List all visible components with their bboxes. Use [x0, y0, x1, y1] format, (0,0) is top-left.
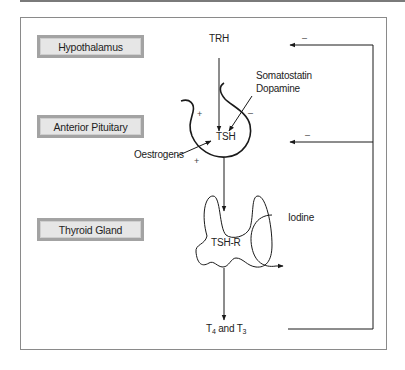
- oestrogens-label: Oestrogens: [134, 149, 184, 160]
- dopamine-label: Dopamine: [256, 83, 300, 94]
- iodine-label: Iodine: [288, 212, 314, 223]
- pituitary-outline: [181, 83, 251, 157]
- plus-sign-upper: +: [197, 109, 202, 119]
- tsh-r-label: TSH-R: [211, 237, 241, 248]
- trh-label: TRH: [209, 33, 229, 44]
- minus-sign-feedback-top: –: [302, 33, 307, 43]
- feedback-hypothalamus-line: [288, 45, 373, 329]
- tsh-label: TSH: [216, 131, 235, 142]
- iodine-arrow: [251, 215, 283, 266]
- plus-sign-lower: +: [194, 156, 199, 166]
- minus-sign-feedback-mid: –: [305, 130, 310, 140]
- t4-t3-label: T4 and T3: [206, 323, 246, 335]
- thyroid-outline: [196, 196, 272, 267]
- diagram-lines: [0, 0, 405, 370]
- minus-sign-pituitary: –: [248, 108, 253, 118]
- somatostatin-label: Somatostatin: [256, 70, 312, 81]
